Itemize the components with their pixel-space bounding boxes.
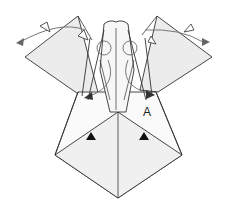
left-wing-flap <box>25 16 100 100</box>
origami-diagram <box>0 0 227 203</box>
point-a-label: A <box>143 105 151 119</box>
right-wing-flap <box>140 16 212 92</box>
push-arrow-icon <box>184 24 194 32</box>
left-arrowhead-icon <box>16 38 24 46</box>
right-arrowhead-icon <box>202 38 210 46</box>
